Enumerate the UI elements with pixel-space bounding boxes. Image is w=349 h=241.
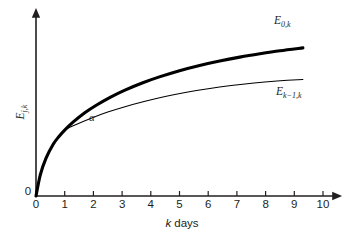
series-label-ek1k-main: E	[275, 85, 283, 97]
y-axis-origin-label: 0	[25, 185, 31, 197]
x-tick-label-0: 0	[33, 198, 39, 210]
chart-canvas: 0 1 2 3 4 5 6 7 8 9 10 0 Ej,k k days α E…	[0, 0, 349, 241]
series-label-e0k-main: E	[273, 14, 281, 26]
x-tick-label-5: 5	[176, 198, 182, 210]
chart-figure: 0 1 2 3 4 5 6 7 8 9 10 0 Ej,k k days α E…	[0, 0, 349, 241]
y-axis-title: Ej,k	[14, 104, 29, 120]
x-tick-label-8: 8	[262, 198, 268, 210]
x-tick-label-3: 3	[119, 198, 125, 210]
x-tick-label-7: 7	[234, 198, 240, 210]
series-line-e0k	[36, 48, 303, 196]
x-tick-label-1: 1	[61, 198, 67, 210]
x-axis-tick-labels: 0 1 2 3 4 5 6 7 8 9 10	[33, 198, 330, 210]
x-tick-label-4: 4	[148, 198, 155, 210]
angle-alpha-label: α	[89, 111, 95, 123]
series-label-e0k-sub: 0,k	[281, 20, 291, 29]
x-tick-label-9: 9	[291, 198, 297, 210]
x-tick-label-2: 2	[90, 198, 96, 210]
series-line-ek1k	[36, 79, 303, 196]
y-axis-title-sub: j,k	[20, 104, 29, 113]
x-axis-title-rest: days	[171, 217, 199, 229]
series-label-ek1k-sub: k−1,k	[283, 91, 302, 100]
series-label-ek1k: Ek−1,k	[275, 85, 302, 100]
x-tick-label-10: 10	[317, 198, 330, 210]
x-tick-label-6: 6	[205, 198, 211, 210]
series-label-e0k: E0,k	[273, 14, 291, 29]
x-axis-title: k days	[165, 217, 198, 229]
y-axis-title-main: E	[14, 112, 26, 120]
